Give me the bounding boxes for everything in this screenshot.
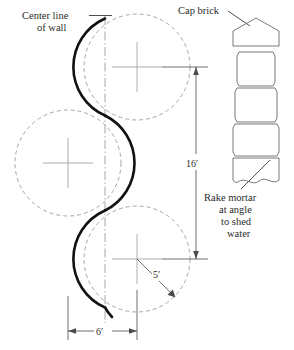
dim-height-arrow-bottom <box>193 251 199 259</box>
dimension-radius: 5′ <box>137 259 176 298</box>
center-mark-middle-left <box>43 138 93 188</box>
dim-width-arrow-right <box>129 328 137 334</box>
brick-course-bottom <box>233 158 279 183</box>
serpentine-wall-drawing: Center line of wall Cap brick Rake morta… <box>0 0 294 350</box>
brick-course-2 <box>235 88 277 122</box>
dimension-height: 16′ <box>162 67 208 259</box>
dim-height-arrow-top <box>193 67 199 75</box>
cap-brick-pentagon <box>233 18 279 46</box>
center-line-label-line1: Center line <box>22 10 69 21</box>
dim-height-label: 16′ <box>186 158 198 169</box>
center-mark-top <box>112 42 162 92</box>
dim-radius-label: 5′ <box>153 269 160 280</box>
rake-mortar-label-line3: to shed <box>221 216 252 227</box>
dimension-width: 6′ <box>68 290 137 340</box>
center-marks <box>43 42 162 284</box>
rake-mortar-label-line1: Rake mortar <box>204 192 257 203</box>
rake-mortar-label-line2: at angle <box>219 204 252 215</box>
wall-arc-tail <box>105 308 112 318</box>
dim-width-arrow-left <box>68 328 76 334</box>
serpentine-wall-curve <box>73 19 134 318</box>
brick-course-3 <box>233 124 279 156</box>
dim-width-label: 6′ <box>96 326 103 337</box>
center-line-label-line2: of wall <box>37 22 67 33</box>
rake-mortar-label-line4: water <box>227 228 251 239</box>
cap-brick-callout: Cap brick <box>178 5 250 26</box>
wall-arc-top <box>73 19 105 116</box>
cap-brick-detail <box>233 18 279 183</box>
cap-brick-label: Cap brick <box>178 5 220 16</box>
wall-arc-bottom <box>73 211 105 308</box>
rake-mortar-leader <box>241 160 270 189</box>
diagram-page: Center line of wall Cap brick Rake morta… <box>0 0 294 350</box>
rake-mortar-callout: Rake mortar at angle to shed water <box>204 160 270 239</box>
brick-course-1 <box>237 52 275 86</box>
